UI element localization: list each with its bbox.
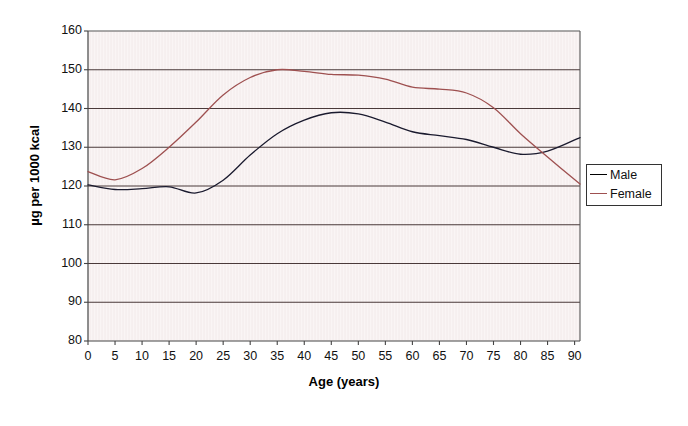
x-tick-label: 90: [560, 349, 590, 363]
legend-label-female: Female: [610, 187, 652, 201]
x-tick-label: 70: [451, 349, 481, 363]
x-tick-label: 5: [100, 349, 130, 363]
x-tick-label: 40: [289, 349, 319, 363]
x-axis-title: Age (years): [254, 374, 434, 389]
x-tick-label: 55: [370, 349, 400, 363]
y-tick-label: 80: [40, 333, 82, 347]
y-tick-label: 160: [40, 23, 82, 37]
chart-legend: Male Female: [586, 164, 662, 206]
x-tick-label: 45: [316, 349, 346, 363]
y-tick-label: 110: [40, 217, 82, 231]
y-tick-label: 100: [40, 256, 82, 270]
x-tick-label: 10: [127, 349, 157, 363]
legend-item-male[interactable]: Male: [587, 165, 661, 184]
x-tick-label: 80: [506, 349, 536, 363]
x-tick-label: 85: [533, 349, 563, 363]
legend-line-icon-female: [590, 193, 607, 194]
y-axis-title: µg per 1000 kcal: [27, 96, 42, 256]
x-tick-label: 15: [154, 349, 184, 363]
y-tick-label: 130: [40, 139, 82, 153]
legend-label-male: Male: [610, 168, 637, 182]
x-tick-label: 30: [235, 349, 265, 363]
x-tick-label: 35: [262, 349, 292, 363]
x-tick-label: 50: [343, 349, 373, 363]
x-tick-label: 60: [397, 349, 427, 363]
x-tick-label: 25: [208, 349, 238, 363]
chart-figure: 8090100110120130140150160 05101520253035…: [0, 0, 688, 426]
x-tick-label: 0: [73, 349, 103, 363]
x-tick-label: 20: [181, 349, 211, 363]
legend-line-icon-male: [590, 174, 607, 175]
y-tick-label: 150: [40, 62, 82, 76]
legend-item-female[interactable]: Female: [587, 184, 661, 203]
y-tick-label: 140: [40, 101, 82, 115]
y-tick-label: 90: [40, 294, 82, 308]
x-tick-label: 65: [424, 349, 454, 363]
x-tick-label: 75: [478, 349, 508, 363]
y-tick-label: 120: [40, 178, 82, 192]
